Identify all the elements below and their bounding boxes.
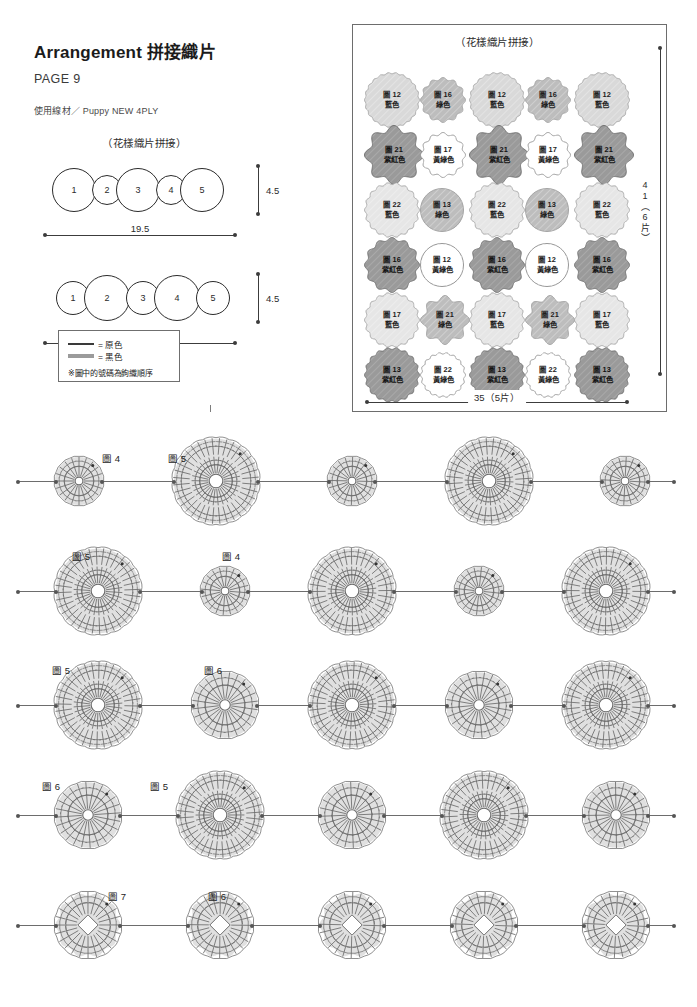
motif-number: 圖 13 [433, 200, 451, 209]
motif-cell[interactable]: 圖 13綠色 [524, 187, 570, 233]
motif-join-line [384, 925, 452, 926]
legend-label-natural: = 原色 [98, 338, 123, 350]
motif-join-line [531, 481, 603, 482]
motif-join-line [140, 705, 193, 706]
motif-cell[interactable]: 圖 12黃綠色 [419, 242, 465, 288]
motif-label: 圖 21紫紅色 [489, 145, 510, 165]
crochet-motif[interactable] [443, 435, 535, 527]
motif-cell[interactable]: 圖 12黃綠色 [524, 242, 570, 288]
motif-cell[interactable]: 圖 13紫紅色 [573, 346, 631, 404]
crochet-motif[interactable] [316, 889, 388, 961]
crochet-motif[interactable] [52, 454, 106, 508]
motif-cell[interactable]: 圖 16綠色 [419, 76, 467, 124]
crochet-motif[interactable] [198, 564, 252, 618]
crochet-motif[interactable] [52, 545, 144, 637]
motif-cell[interactable]: 圖 17黃綠色 [524, 131, 572, 179]
motif-label: 圖 12藍色 [488, 90, 506, 110]
motif-label: 圖 12黃綠色 [537, 255, 558, 275]
motif-cell[interactable]: 圖 21紫紅色 [468, 124, 530, 186]
motif-cell[interactable]: 圖 12藍色 [363, 71, 421, 129]
assembly-row: 12345184.5 [34, 267, 304, 329]
motif-cell[interactable]: 圖 21紫紅色 [363, 124, 425, 186]
assembly-circle-number: 3 [135, 185, 140, 195]
motif-cell[interactable]: 圖 17黃綠色 [419, 131, 467, 179]
crochet-motif[interactable] [325, 454, 379, 508]
motif-cell[interactable]: 圖 16紫紅色 [363, 236, 421, 294]
crochet-motif[interactable] [598, 454, 652, 508]
motif-color-name: 紫紅色 [487, 375, 508, 384]
motif-color-name: 藍色 [385, 210, 399, 219]
assembly-row-container: 1234519.54.512345184.5 [34, 159, 304, 329]
motif-join-line [248, 591, 310, 592]
motif-cell[interactable]: 圖 22藍色 [468, 181, 526, 239]
motif-number: 圖 16 [593, 255, 611, 264]
crochet-motif[interactable] [170, 435, 262, 527]
crochet-motif[interactable] [189, 669, 261, 741]
motif-join-line [526, 815, 584, 816]
motif-cell[interactable]: 圖 22黃綠色 [524, 351, 572, 399]
motif-cell[interactable]: 圖 13綠色 [419, 187, 465, 233]
motif-join-line [262, 815, 320, 816]
crochet-motif[interactable] [316, 779, 388, 851]
motif-cell[interactable]: 圖 22藍色 [363, 181, 421, 239]
page-title: Arrangement 拼接織片 [34, 38, 334, 63]
crochet-motif[interactable] [580, 889, 652, 961]
motif-cell[interactable]: 圖 12藍色 [573, 71, 631, 129]
motif-join-line [648, 481, 674, 482]
motif-label: 圖 12藍色 [593, 90, 611, 110]
motif-number: 圖 17 [539, 145, 557, 154]
crochet-motif-chart-icon [306, 659, 398, 751]
motif-number: 圖 21 [490, 145, 508, 154]
crochet-motif-chart-icon [598, 454, 652, 508]
legend-box: = 原色 = 黑色 ※圖中的號碼為鉤織順序 [58, 330, 180, 382]
chart-row-label: 圖 6 [42, 779, 60, 793]
motif-number: 圖 13 [488, 365, 506, 374]
crochet-motif[interactable] [452, 564, 506, 618]
crochet-motif[interactable] [174, 769, 266, 861]
motif-color-name: 藍色 [490, 100, 504, 109]
motif-label: 圖 13綠色 [433, 200, 451, 220]
motif-cell[interactable]: 圖 21綠色 [524, 294, 576, 346]
assembly-circle: 5 [180, 168, 224, 212]
motif-cell[interactable]: 圖 17藍色 [363, 291, 421, 349]
chart-row-label: 圖 6 [208, 889, 226, 903]
motif-join-line [648, 591, 674, 592]
assembly-circle-number: 5 [210, 293, 215, 303]
motif-label: 圖 13紫紅色 [382, 365, 403, 385]
crochet-motif[interactable] [560, 545, 652, 637]
motif-color-name: 綠色 [438, 320, 452, 329]
chart-row-label: 圖 5 [52, 663, 70, 677]
crochet-motif[interactable] [560, 659, 652, 751]
motif-cell[interactable]: 圖 16紫紅色 [468, 236, 526, 294]
crochet-motif[interactable] [52, 779, 124, 851]
assembly-height-dimension: 4.5 [252, 273, 264, 323]
thick-line-icon [68, 354, 94, 358]
motif-number: 圖 21 [385, 145, 403, 154]
motif-cell[interactable]: 圖 16紫紅色 [573, 236, 631, 294]
motif-cell[interactable]: 圖 22黃綠色 [419, 351, 467, 399]
crochet-chart-row: 圖 6圖 5 [0, 761, 697, 869]
crochet-motif[interactable] [443, 669, 515, 741]
assembly-row: 1234519.54.5 [34, 159, 304, 221]
crochet-motif[interactable] [448, 889, 520, 961]
assembly-circle: 2 [84, 275, 130, 321]
crochet-motif[interactable] [438, 769, 530, 861]
motif-cell[interactable]: 圖 22藍色 [573, 181, 631, 239]
motif-cell[interactable]: 圖 16綠色 [524, 76, 572, 124]
motif-cell[interactable]: 圖 21紫紅色 [573, 124, 635, 186]
crochet-motif[interactable] [580, 779, 652, 851]
motif-number: 圖 16 [383, 255, 401, 264]
thin-line-icon [68, 343, 94, 345]
motif-cell[interactable]: 圖 12藍色 [468, 71, 526, 129]
motif-join-line [257, 705, 310, 706]
motif-cell[interactable]: 圖 17藍色 [573, 291, 631, 349]
motif-cell[interactable]: 圖 13紫紅色 [363, 346, 421, 404]
motif-join-line [102, 481, 174, 482]
crochet-motif[interactable] [306, 545, 398, 637]
motif-cell[interactable]: 圖 17藍色 [468, 291, 526, 349]
motif-number: 圖 12 [488, 90, 506, 99]
motif-color-name: 紫紅色 [592, 375, 613, 384]
motif-cell[interactable]: 圖 21綠色 [419, 294, 471, 346]
crochet-motif-chart-icon [170, 435, 262, 527]
crochet-motif[interactable] [306, 659, 398, 751]
